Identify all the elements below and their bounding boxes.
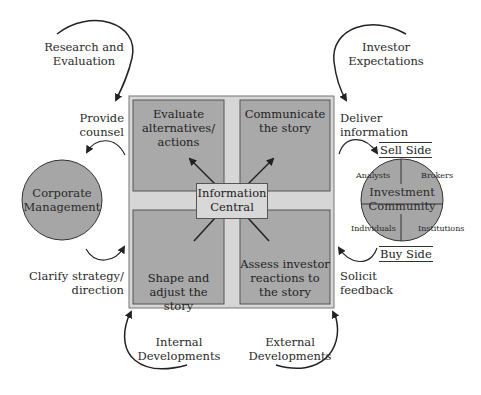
information-central-box: Information Central <box>196 183 268 219</box>
corp-line2: Management <box>22 200 102 214</box>
provide-counsel-label: Provide counsel <box>60 111 124 139</box>
segment-individuals: Individuals <box>351 224 396 234</box>
community-line1: Investment <box>362 185 442 199</box>
deliver-information-arrow <box>339 140 377 154</box>
buy-side-label: Buy Side <box>379 246 433 262</box>
investment-community-label: Investment Community <box>362 185 442 213</box>
assess-line1: Assess investor <box>240 257 330 271</box>
quadrant-evaluate-label: Evaluate alternatives/ actions <box>133 107 224 149</box>
internal-line2: Developments <box>134 349 224 363</box>
expectations-line2: Expectations <box>336 54 436 68</box>
research-line1: Research and <box>44 40 124 54</box>
corp-line1: Corporate <box>22 186 102 200</box>
communicate-line1: Communicate <box>240 107 330 121</box>
research-line2: Evaluation <box>44 54 124 68</box>
evaluate-line2: alternatives/ <box>133 121 224 135</box>
counsel-line1: Provide <box>60 111 124 125</box>
quadrant-shape-label: Shape and adjust the story <box>133 271 224 313</box>
solicit-line2: feedback <box>340 283 393 297</box>
segment-brokers: Brokers <box>421 171 453 181</box>
quadrant-assess-label: Assess investor reactions to the story <box>240 257 330 299</box>
clarify-strategy-label: Clarify strategy/ direction <box>20 269 124 297</box>
counsel-line2: counsel <box>60 125 124 139</box>
internal-developments-label: Internal Developments <box>134 335 224 363</box>
solicit-feedback-arrow <box>339 248 377 262</box>
assess-line2: reactions to <box>240 271 330 285</box>
quadrant-communicate-label: Communicate the story <box>240 107 330 135</box>
central-line1: Information <box>197 186 267 200</box>
communicate-line2: the story <box>240 121 330 135</box>
segment-analysts: Analysts <box>356 171 390 181</box>
research-evaluation-label: Research and Evaluation <box>44 40 124 68</box>
external-line1: External <box>240 335 340 349</box>
assess-line3: the story <box>240 285 330 299</box>
shape-line1: Shape and <box>133 271 224 285</box>
corporate-management-label: Corporate Management <box>22 186 102 214</box>
external-developments-label: External Developments <box>240 335 340 363</box>
community-line2: Community <box>362 199 442 213</box>
evaluate-line1: Evaluate <box>133 107 224 121</box>
clarify-line2: direction <box>20 283 124 297</box>
provide-counsel-arrow <box>87 141 125 155</box>
deliver-line2: information <box>340 125 408 139</box>
solicit-line1: Solicit <box>340 269 393 283</box>
internal-line1: Internal <box>134 335 224 349</box>
clarify-line1: Clarify strategy/ <box>20 269 124 283</box>
external-line2: Developments <box>240 349 340 363</box>
sell-side-label: Sell Side <box>379 142 432 158</box>
central-line2: Central <box>197 200 267 214</box>
expectations-line1: Investor <box>336 40 436 54</box>
clarify-strategy-arrow <box>86 247 124 260</box>
evaluate-line3: actions <box>133 135 224 149</box>
shape-line2: adjust the story <box>133 285 224 313</box>
investor-expectations-label: Investor Expectations <box>336 40 436 68</box>
solicit-feedback-label: Solicit feedback <box>340 269 393 297</box>
deliver-information-label: Deliver information <box>340 111 408 139</box>
deliver-line1: Deliver <box>340 111 408 125</box>
segment-institutions: Institutions <box>418 224 464 234</box>
